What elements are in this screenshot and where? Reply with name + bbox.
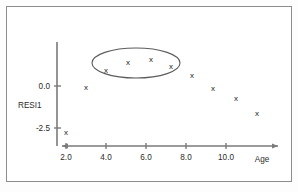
scatter-plot: 2.0 4.0 6.0 8.0 10.0 0.0 -2.5 RESI1 Age … [0, 0, 298, 192]
data-point-marker: x [84, 83, 88, 92]
figure-root: 2.0 4.0 6.0 8.0 10.0 0.0 -2.5 RESI1 Age … [0, 0, 298, 192]
data-point-marker: x [64, 128, 68, 137]
x-tick-label-3: 8.0 [180, 153, 192, 162]
x-tick-label-1: 4.0 [100, 153, 112, 162]
x-tick-label-0: 2.0 [60, 153, 72, 162]
data-point-marker: x [104, 66, 108, 75]
data-point-marker: x [211, 84, 215, 93]
y-tick-label-0: 0.0 [39, 82, 51, 91]
data-point-marker: x [190, 71, 194, 80]
x-axis-origin-arrow [62, 144, 68, 149]
data-point-marker: x [149, 55, 153, 64]
data-point-marker: x [126, 58, 130, 67]
y-tick-label-1: -2.5 [36, 124, 51, 133]
y-axis-title: RESI1 [18, 101, 42, 110]
data-point-marker: x [169, 62, 173, 71]
x-tick-label-4: 10.0 [218, 153, 234, 162]
x-axis-title: Age [255, 155, 270, 164]
data-point-marker: x [255, 109, 259, 118]
x-axis-arrowhead [272, 144, 278, 149]
data-point-marker: x [234, 94, 238, 103]
x-tick-label-2: 6.0 [140, 153, 152, 162]
